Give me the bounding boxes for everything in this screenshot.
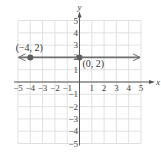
coordinate-plane: xy −5−4−3−2−11234554321−1−2−3−4−5 (−4, 2… xyxy=(0,0,161,154)
x-tick-label: −2 xyxy=(50,83,60,93)
y-tick-label: −3 xyxy=(68,114,78,124)
x-tick-label: 4 xyxy=(126,83,131,93)
y-tick-label: 1 xyxy=(74,65,79,75)
x-tick-label: 2 xyxy=(102,83,107,93)
y-tick-label: 5 xyxy=(74,16,79,26)
x-axis-arrow-icon xyxy=(149,80,155,84)
y-tick-label: −4 xyxy=(68,126,78,136)
y-tick-label: −1 xyxy=(68,89,78,99)
x-tick-label: −3 xyxy=(38,83,48,93)
x-tick-label: −5 xyxy=(13,83,23,93)
data-point xyxy=(27,54,33,60)
x-tick-label: 5 xyxy=(139,83,144,93)
axes: xy xyxy=(14,2,160,146)
point-label: (0, 2) xyxy=(83,58,105,70)
x-axis-label: x xyxy=(155,77,160,87)
x-tick-label: 3 xyxy=(114,83,119,93)
point-label: (−4, 2) xyxy=(16,42,43,54)
x-tick-label: −4 xyxy=(26,83,36,93)
y-axis-label: y xyxy=(77,2,82,12)
y-tick-label: −2 xyxy=(68,102,78,112)
y-axis-arrow-icon xyxy=(78,12,82,18)
y-tick-label: −5 xyxy=(68,139,78,149)
x-tick-label: 1 xyxy=(90,83,95,93)
y-tick-label: 4 xyxy=(74,28,79,38)
y-tick-label: 3 xyxy=(74,40,79,50)
